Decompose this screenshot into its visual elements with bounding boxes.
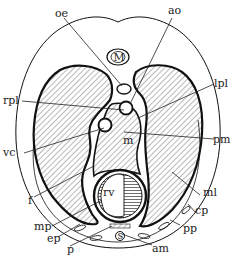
- thorax-cross-section-diagram: M oe ao r: [0, 0, 236, 257]
- label-rv: rv: [103, 186, 115, 199]
- vertebra: M: [107, 49, 129, 65]
- label-am: am: [152, 242, 170, 255]
- label-cp: cp: [195, 204, 208, 217]
- vertebra-glyph: M: [114, 51, 125, 64]
- label-oe: oe: [55, 7, 68, 20]
- label-pm: pm: [213, 133, 231, 146]
- oesophagus: [117, 84, 131, 94]
- mediastinum: [93, 103, 141, 176]
- label-m: m: [123, 134, 134, 147]
- vena-cava: [99, 119, 112, 132]
- label-ao: ao: [168, 4, 182, 17]
- label-rpl: rpl: [3, 94, 19, 107]
- label-pp: pp: [183, 222, 197, 235]
- label-vc: vc: [2, 146, 15, 159]
- label-p: p: [67, 243, 74, 256]
- label-ml: ml: [203, 186, 217, 199]
- label-s: s: [118, 229, 124, 242]
- sternal-mesh: [110, 224, 130, 228]
- label-ep: ep: [47, 232, 61, 245]
- label-lpl: lpl: [214, 77, 229, 90]
